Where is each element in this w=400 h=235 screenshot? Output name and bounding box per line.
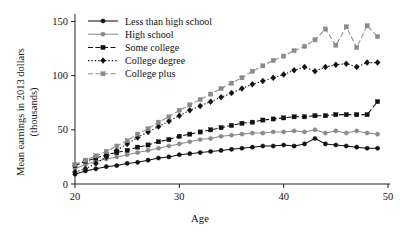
series-marker [125,139,129,143]
y-tick-label: 50 [58,124,69,135]
legend-marker [101,32,105,36]
x-tick-label: 40 [278,191,289,202]
series-marker [115,144,119,148]
series-marker [198,103,203,109]
series-marker [344,113,348,117]
series-marker [323,64,328,70]
series-marker [271,130,275,134]
series-marker [334,143,338,147]
series-marker [344,61,349,67]
series-marker [375,60,380,66]
series-marker [313,38,317,42]
series-marker [292,144,296,148]
line-chart: 05010015020304050 Less than high schoolH… [0,0,400,235]
series-marker [188,132,192,136]
series-marker [239,86,244,92]
series-marker [365,24,369,28]
legend-label: College degree [125,55,186,66]
series-marker [375,34,379,38]
series-marker [229,81,233,85]
series-marker [146,158,150,162]
series-marker [198,130,202,134]
series-marker [188,103,192,107]
series-marker [209,136,213,140]
series-marker [302,115,306,119]
series-marker [146,127,150,131]
series-marker [167,115,171,119]
series-marker [334,113,338,117]
series-marker [344,144,348,148]
series-marker [177,153,181,157]
series-marker [323,131,327,135]
legend-marker [100,58,105,64]
series-marker [261,64,265,68]
series-marker [219,126,223,130]
series-marker [250,131,254,135]
series-marker [219,134,223,138]
series-marker [355,145,359,149]
series-marker [83,158,87,162]
series-marker [136,145,140,149]
series-marker [250,120,254,124]
series-marker [198,97,202,101]
legend-item-1: High school [88,29,174,40]
series-marker [177,134,181,138]
series-marker [250,81,255,87]
legend-label: College plus [125,68,175,79]
series-marker [104,149,108,153]
series-marker [323,114,327,118]
series-marker [365,146,369,150]
series-marker [136,132,140,136]
series-marker [167,137,171,141]
legend-label: Some college [125,42,180,53]
series-marker [292,49,296,53]
y-axis-title-line2: (thousands) [27,22,40,202]
series-marker [313,114,317,118]
series-marker [209,92,213,96]
series-marker [334,129,338,133]
series-marker [334,43,338,47]
series-marker [282,143,286,147]
series-marker [302,142,306,146]
series-marker [344,25,348,29]
series-marker [333,62,338,68]
series-marker [229,90,234,96]
series-marker [312,68,317,74]
series-marker [261,144,265,148]
series-marker [355,129,359,133]
series-marker [250,145,254,149]
legend-marker [101,72,105,76]
y-tick-label: 0 [63,179,68,190]
legend-item-0: Less than high school [88,16,212,27]
series-marker [261,118,265,122]
series-marker [271,58,275,62]
series-marker [188,152,192,156]
series-marker [115,155,119,159]
series-marker [323,27,327,31]
series-marker [188,140,192,144]
series-marker [313,136,317,140]
legend-label: Less than high school [125,16,212,27]
legend-item-3: College degree [88,55,186,66]
series-marker [115,163,119,167]
series-marker [156,156,160,160]
x-tick-label: 20 [70,191,81,202]
series-marker [73,162,77,166]
series-marker [104,165,108,169]
y-tick-label: 150 [52,16,68,27]
x-tick-label: 50 [383,191,394,202]
series-marker [271,144,275,148]
series-marker [282,130,286,134]
axes: 05010015020304050 [52,14,393,202]
series-marker [354,64,359,70]
series-marker [125,148,129,152]
series-marker [261,131,265,135]
series-marker [365,113,369,117]
series-marker [240,121,244,125]
series-marker [344,131,348,135]
series-marker [198,150,202,154]
series-marker [240,146,244,150]
series-line [75,130,378,169]
series-marker [125,153,129,157]
legend-marker [101,19,105,23]
